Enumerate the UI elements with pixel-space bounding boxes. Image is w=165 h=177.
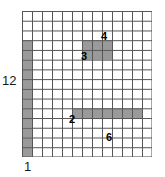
cell-label-6: 6 — [106, 132, 112, 143]
grid-container — [22, 11, 152, 157]
grid-cell-shaded — [122, 108, 132, 118]
grid-cell-shaded — [92, 50, 102, 60]
grid-cell-shaded — [112, 108, 122, 118]
grid-cell-shaded — [102, 108, 112, 118]
grid-cell-shaded — [102, 50, 112, 60]
grid-cell-shaded — [82, 40, 92, 50]
grid-cell-shaded — [22, 147, 32, 157]
grid-cell-shaded — [22, 69, 32, 79]
axis-label-bottom: 1 — [24, 160, 31, 173]
grid-cell-shaded — [22, 60, 32, 70]
grid-cell-shaded — [22, 89, 32, 99]
grid-cell-shaded — [22, 40, 32, 50]
grid-cell-shaded — [22, 99, 32, 109]
grid-canvas — [22, 11, 152, 157]
cell-label-4: 4 — [101, 31, 107, 42]
grid-cell-shaded — [22, 137, 32, 147]
grid-cell-shaded — [92, 108, 102, 118]
grid-figure: 12 1 4 3 2 6 — [0, 0, 165, 177]
axis-label-left: 12 — [2, 74, 16, 87]
grid-cell-shaded — [132, 108, 142, 118]
grid-cell-shaded — [22, 128, 32, 138]
grid-cell-shaded — [22, 108, 32, 118]
grid-cell-shaded — [22, 50, 32, 60]
cell-label-2: 2 — [69, 114, 75, 125]
grid-cell-shaded — [82, 108, 92, 118]
grid-cell-shaded — [22, 79, 32, 89]
cell-label-3: 3 — [81, 51, 87, 62]
grid-cell-shaded — [22, 118, 32, 128]
